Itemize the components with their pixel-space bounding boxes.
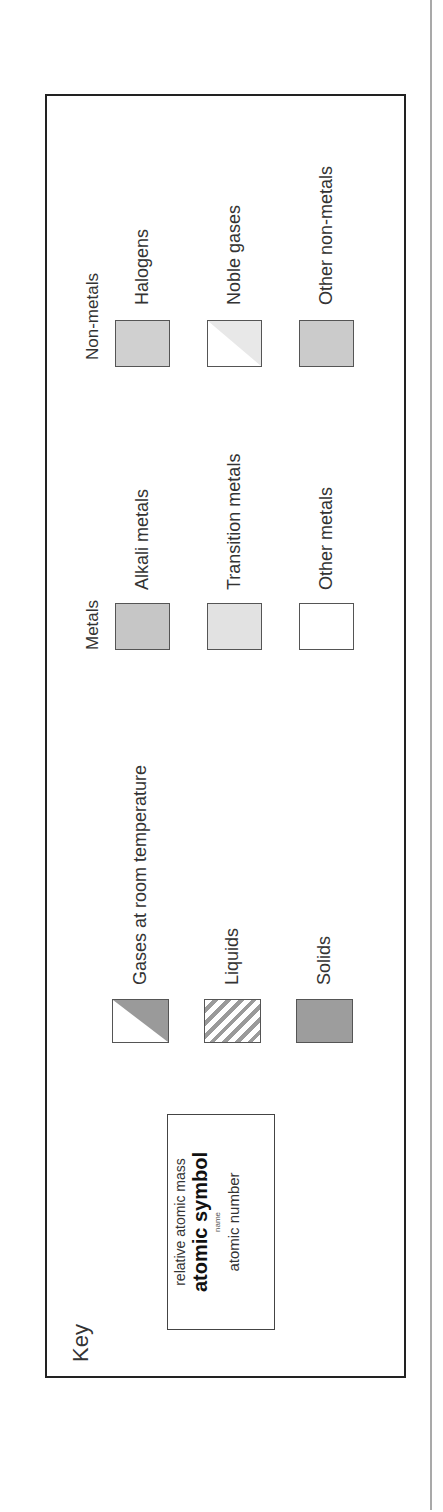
liquid-swatch <box>204 999 261 1043</box>
key-panel: Key relative atomic mass atomic symbol n… <box>0 0 443 1512</box>
gas-swatch-fill <box>113 1000 168 1042</box>
non-metals-label-halogens: Halogens <box>131 229 153 305</box>
other-non-metals-swatch <box>299 320 354 367</box>
noble-gases-swatch-fill <box>208 321 261 366</box>
noble-gases-swatch <box>207 320 262 367</box>
metals-label-other: Other metals <box>315 487 337 590</box>
solid-swatch <box>296 999 353 1043</box>
relative-atomic-mass-label: relative atomic mass <box>172 1115 189 1329</box>
atomic-symbol-label: atomic symbol <box>189 1115 211 1329</box>
metals-header: Metals <box>83 600 103 650</box>
other-metals-swatch <box>299 603 354 650</box>
gas-swatch <box>112 999 169 1043</box>
halogens-swatch <box>115 320 170 367</box>
non-metals-header: Non-metals <box>83 273 103 360</box>
non-metals-label-other: Other non-metals <box>315 166 337 305</box>
metals-label-alkali: Alkali metals <box>131 489 153 590</box>
metals-label-transition: Transition metals <box>223 454 245 590</box>
state-label-gases: Gases at room temperature <box>129 765 151 985</box>
key-title: Key <box>68 1324 94 1362</box>
state-label-liquids: Liquids <box>221 928 243 985</box>
non-metals-label-noble-gases: Noble gases <box>223 205 245 305</box>
transition-metals-swatch <box>207 603 262 650</box>
alkali-metals-swatch <box>115 603 170 650</box>
element-info-legend: relative atomic mass atomic symbol name … <box>167 1114 275 1330</box>
element-name-label: name <box>211 1115 225 1329</box>
state-label-solids: Solids <box>313 936 335 985</box>
atomic-number-label: atomic number <box>225 1115 243 1329</box>
